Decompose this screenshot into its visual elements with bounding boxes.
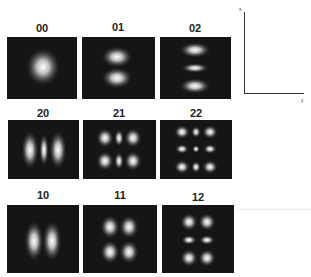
mode-tile-20 xyxy=(8,120,79,179)
mode-tile-01 xyxy=(82,37,155,99)
mode-label-10: 10 xyxy=(7,189,79,201)
intensity-pattern-01 xyxy=(82,37,155,99)
mode-label-11: 11 xyxy=(84,189,156,201)
mode-label-20: 20 xyxy=(7,107,79,119)
mode-label-00: 00 xyxy=(6,22,78,34)
faint-divider xyxy=(236,209,311,210)
intensity-pattern-10 xyxy=(7,205,79,273)
mode-label-01: 01 xyxy=(82,21,154,33)
intensity-pattern-22 xyxy=(160,120,232,179)
intensity-pattern-11 xyxy=(83,205,157,273)
mode-tile-02 xyxy=(160,37,231,99)
mode-tile-11 xyxy=(83,205,157,273)
mode-tile-10 xyxy=(7,205,79,273)
mode-tile-21 xyxy=(83,120,156,179)
mode-label-02: 02 xyxy=(159,22,231,34)
y-axis-line xyxy=(244,93,304,94)
y-axis-label: y xyxy=(301,97,304,103)
intensity-pattern-02 xyxy=(160,37,231,99)
intensity-pattern-20 xyxy=(8,120,79,179)
mode-tile-12 xyxy=(162,205,234,273)
mode-label-12: 12 xyxy=(162,191,234,203)
intensity-pattern-21 xyxy=(83,120,156,179)
mode-tile-00 xyxy=(7,37,77,99)
mode-label-21: 21 xyxy=(83,107,155,119)
mode-tile-22 xyxy=(160,120,232,179)
x-axis-line xyxy=(244,12,245,94)
intensity-pattern-12 xyxy=(162,205,234,273)
mode-label-22: 22 xyxy=(160,107,232,119)
intensity-pattern-00 xyxy=(7,37,77,99)
x-axis-label: x xyxy=(239,6,242,12)
